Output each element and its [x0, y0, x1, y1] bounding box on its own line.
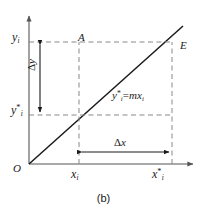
- axis-label-y-upper: yi: [12, 31, 20, 45]
- figure-container: yi y*i A E O xi x*i y*i=mxi Δx Δy (b): [0, 0, 207, 218]
- figure-canvas: [0, 0, 207, 218]
- delta-x-label: Δx: [114, 137, 126, 148]
- figure-caption: (b): [0, 192, 207, 204]
- point-label-e: E: [180, 40, 187, 51]
- regression-line: [29, 26, 183, 164]
- origin-label: O: [13, 163, 21, 174]
- axis-label-x-lower: xi: [71, 168, 79, 182]
- point-label-a: A: [78, 32, 85, 43]
- equation-label: y*i=mxi: [112, 90, 144, 103]
- axis-label-y-lower: y*i: [11, 104, 23, 118]
- axis-label-x-upper: x*i: [152, 168, 164, 182]
- delta-y-label: Δy: [26, 59, 37, 71]
